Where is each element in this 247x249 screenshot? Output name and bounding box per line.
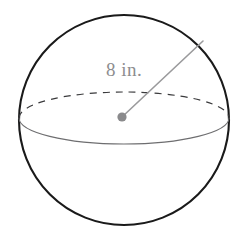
sphere-center-dot <box>117 112 126 121</box>
radius-measurement-label: 8 in. <box>106 59 142 81</box>
sphere-figure: 8 in. <box>0 0 247 249</box>
sphere-diagram-canvas <box>0 0 247 249</box>
